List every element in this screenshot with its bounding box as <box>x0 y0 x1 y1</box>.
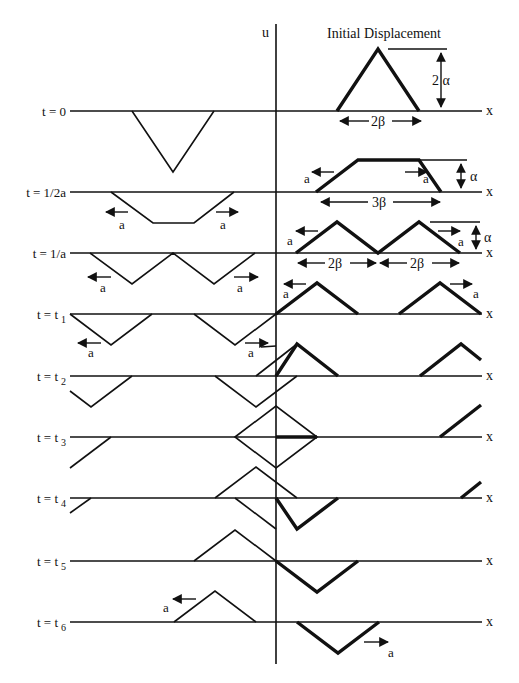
svg-text:1: 1 <box>61 314 66 325</box>
svg-text:a: a <box>88 345 94 360</box>
svg-text:2: 2 <box>61 376 66 387</box>
image-positive-triangle <box>194 530 276 561</box>
row-t6: a a <box>163 591 394 660</box>
svg-text:a: a <box>163 600 169 615</box>
svg-text:a: a <box>388 645 394 660</box>
svg-text:t = 0: t = 0 <box>42 104 66 119</box>
svg-text:x: x <box>486 429 493 444</box>
svg-text:t = 1/2a: t = 1/2a <box>26 185 66 200</box>
outgoing-image-triangle <box>215 467 297 498</box>
svg-text:x: x <box>486 306 493 321</box>
svg-text:a: a <box>287 233 293 248</box>
split-triangles-positive <box>296 222 460 253</box>
svg-text:2β: 2β <box>371 114 385 129</box>
x-axis-labels: x x x x x x x x x <box>486 103 493 629</box>
svg-text:6: 6 <box>61 622 66 633</box>
svg-text:x: x <box>486 368 493 383</box>
split-triangles-negative <box>90 253 255 284</box>
svg-text:a: a <box>423 171 429 186</box>
trapezoid-negative <box>111 192 234 223</box>
reflecting-pulse <box>276 344 338 376</box>
right-pulse-edge <box>440 405 481 437</box>
svg-text:a: a <box>304 171 310 186</box>
svg-text:t = t: t = t <box>37 369 58 384</box>
svg-text:α: α <box>484 230 492 245</box>
image-descent <box>235 498 276 529</box>
reflected-negative-pulse <box>297 622 379 653</box>
svg-text:t = t: t = t <box>37 615 58 630</box>
left-pulse-edge <box>70 437 111 468</box>
initial-triangle <box>337 49 419 111</box>
svg-text:x: x <box>486 184 493 199</box>
svg-text:x: x <box>486 245 493 260</box>
svg-text:3β: 3β <box>372 195 386 210</box>
u-axis-label: u <box>262 25 269 40</box>
right-pulse-partial <box>420 344 481 376</box>
svg-text:t = t: t = t <box>37 491 58 506</box>
svg-text:a: a <box>237 280 243 295</box>
row-t-half: α 3β a a a a <box>106 160 478 232</box>
svg-text:x: x <box>486 103 493 118</box>
svg-text:5: 5 <box>61 561 66 572</box>
title: Initial Displacement <box>327 26 441 41</box>
row-labels: t = 0 t = 1/2a t = 1/a t = t t = t t = t… <box>26 104 66 630</box>
incoming-negative-triangle <box>215 376 297 407</box>
svg-text:a: a <box>220 217 226 232</box>
svg-text:3: 3 <box>61 437 66 448</box>
left-negative-partial <box>70 376 132 407</box>
svg-text:t = t: t = t <box>37 430 58 445</box>
right-pulse-tail <box>461 482 481 498</box>
svg-text:x: x <box>486 553 493 568</box>
right-triangle-negative <box>194 314 276 345</box>
svg-text:2 α: 2 α <box>432 73 451 88</box>
svg-text:a: a <box>458 234 464 249</box>
svg-text:a: a <box>283 286 289 301</box>
left-triangle-negative <box>70 314 152 345</box>
svg-text:2β: 2β <box>410 256 424 271</box>
svg-text:4: 4 <box>61 498 66 509</box>
left-pulse-tail <box>70 498 91 513</box>
row-label-subscripts: 1 2 3 4 5 6 <box>61 314 66 633</box>
wave-reflection-diagram: u Initial Displacement x x x x x x x x x… <box>0 0 519 683</box>
image-positive-triangle <box>174 591 256 622</box>
svg-text:α: α <box>470 169 478 184</box>
svg-text:a: a <box>119 217 125 232</box>
svg-text:x: x <box>486 490 493 505</box>
svg-text:a: a <box>100 280 106 295</box>
image-triangle <box>132 111 214 172</box>
svg-text:t = t: t = t <box>37 554 58 569</box>
right-triangle-positive <box>399 283 481 314</box>
svg-text:a: a <box>248 345 254 360</box>
svg-text:a: a <box>473 286 479 301</box>
svg-text:x: x <box>486 614 493 629</box>
svg-text:t = 1/a: t = 1/a <box>33 246 67 261</box>
svg-text:t = t: t = t <box>37 307 58 322</box>
svg-text:2β: 2β <box>328 256 342 271</box>
reflected-negative-pulse <box>276 561 358 592</box>
inverted-reflected-pulse <box>276 498 338 529</box>
